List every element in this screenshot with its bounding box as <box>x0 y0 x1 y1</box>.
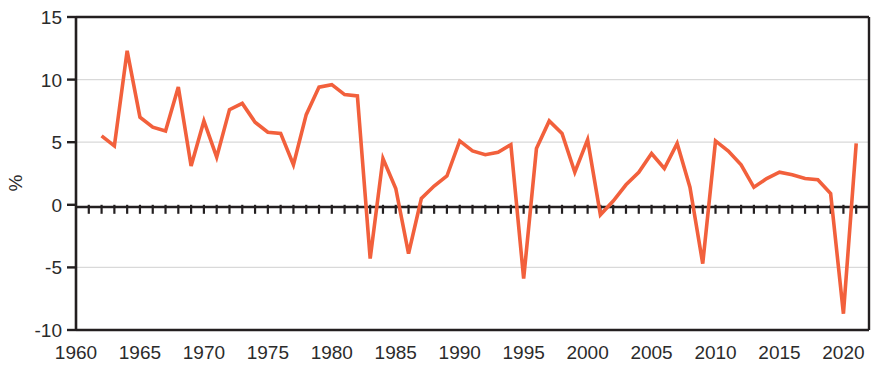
y-axis-ticks <box>67 17 76 330</box>
y-axis-tick-label: 0 <box>51 195 62 216</box>
y-axis-tick-label: -10 <box>35 320 62 341</box>
y-axis-tick-label: 15 <box>41 7 62 28</box>
y-axis-tick-label: 5 <box>51 132 62 153</box>
plot-border <box>76 17 869 330</box>
gridlines <box>76 80 869 268</box>
x-axis-tick-label: 1985 <box>375 342 417 363</box>
x-axis-tick-label: 1995 <box>503 342 545 363</box>
x-axis-tick-label: 1975 <box>247 342 289 363</box>
x-axis-tick-labels: 1960196519701975198019851990199520002005… <box>55 342 865 363</box>
chart-container: -10-5051015 1960196519701975198019851990… <box>0 0 875 389</box>
x-axis-tick-label: 2010 <box>694 342 736 363</box>
x-axis-tick-label: 2015 <box>758 342 800 363</box>
y-axis-tick-label: 10 <box>41 70 62 91</box>
x-axis-tick-label: 1990 <box>439 342 481 363</box>
x-axis-tick-label: 2005 <box>630 342 672 363</box>
y-axis-title: % <box>5 174 26 191</box>
x-axis-tick-label: 1965 <box>119 342 161 363</box>
x-axis-tick-label: 1970 <box>183 342 225 363</box>
x-axis-tick-label: 2020 <box>822 342 864 363</box>
y-axis-tick-label: -5 <box>45 257 62 278</box>
y-axis-tick-labels: -10-5051015 <box>35 7 62 341</box>
line-chart: -10-5051015 1960196519701975198019851990… <box>0 0 875 389</box>
x-axis-tick-label: 1960 <box>55 342 97 363</box>
x-axis-tick-label: 2000 <box>566 342 608 363</box>
x-axis-minor-ticks <box>89 205 856 214</box>
data-series-line <box>102 51 857 314</box>
x-axis-tick-label: 1980 <box>311 342 353 363</box>
